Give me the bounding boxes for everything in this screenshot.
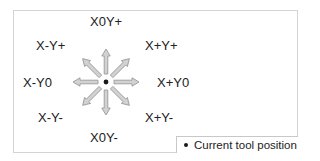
legend-text: Current tool position [194, 138, 297, 152]
legend-dot-icon [184, 143, 188, 147]
label-x0-yplus: X0Y+ [90, 14, 122, 29]
arrow-xplus-yplus-icon [109, 56, 133, 80]
arrow-xminus-y0-icon [73, 78, 98, 86]
arrow-xplus-y0-icon [114, 78, 139, 86]
label-xminus-y0: X-Y0 [23, 75, 52, 90]
arrow-xminus-yplus-icon [80, 56, 104, 80]
label-xplus-yminus: X+Y- [145, 110, 173, 125]
arrow-x0-yminus-icon [102, 90, 110, 115]
label-xminus-yminus: X-Y- [38, 110, 63, 125]
label-xplus-yplus: X+Y+ [145, 38, 178, 53]
label-xminus-yplus: X-Y+ [36, 38, 65, 53]
arrow-x0-yplus-icon [102, 49, 110, 74]
legend: Current tool position [176, 136, 298, 153]
label-xplus-y0: X+Y0 [157, 75, 189, 90]
arrow-xplus-yminus-icon [109, 85, 133, 109]
label-x0-yminus: X0Y- [90, 130, 118, 145]
current-tool-position-dot-icon [104, 80, 109, 85]
arrow-xminus-yminus-icon [80, 85, 104, 109]
